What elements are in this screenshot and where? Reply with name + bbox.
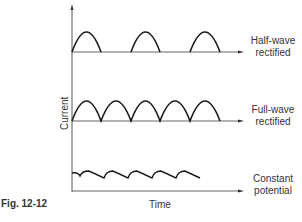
half-wave-trace (72, 32, 220, 52)
time-axis-arrow-icon (238, 190, 244, 193)
half-wave-arrow-icon (238, 51, 244, 54)
full-wave-arrow-icon (238, 120, 244, 123)
x-axis-label: Time (140, 199, 180, 211)
full-wave-label: Full-wave rectified (245, 104, 301, 128)
constant-potential-trace (72, 171, 200, 178)
y-axis-label: Current (59, 97, 70, 130)
full-wave-trace (72, 101, 220, 121)
half-wave-label: Half-wave rectified (245, 35, 301, 59)
y-axis-arrow-icon (71, 4, 74, 10)
constant-potential-label: Constant potential (245, 173, 301, 197)
figure-caption: Fig. 12-12 (1, 198, 47, 209)
